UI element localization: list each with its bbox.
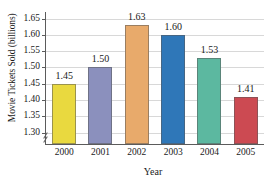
bar-value-label: 1.41 bbox=[237, 84, 255, 94]
x-axis-tick-label: 2001 bbox=[91, 148, 110, 158]
bar-group: 1.532004 bbox=[191, 12, 227, 144]
plot-area: 1.301.351.401.451.501.551.601.65 1.45200… bbox=[45, 12, 264, 145]
bar-group: 1.502001 bbox=[82, 12, 118, 144]
bar-value-label: 1.60 bbox=[164, 22, 182, 32]
y-axis-tick-label: 1.50 bbox=[23, 63, 40, 73]
y-axis-title: Movie Tickets Sold (billions) bbox=[8, 0, 18, 138]
bar-group: 1.452000 bbox=[46, 12, 82, 144]
x-axis-tick-label: 2005 bbox=[236, 148, 255, 158]
x-axis-tick-label: 2000 bbox=[55, 148, 74, 158]
bar-group: 1.632002 bbox=[119, 12, 155, 144]
bar-value-label: 1.63 bbox=[128, 12, 146, 22]
y-axis-tick-label: 1.40 bbox=[23, 95, 40, 105]
bar-value-label: 1.53 bbox=[201, 45, 219, 55]
x-axis-line bbox=[45, 144, 264, 145]
bar[interactable] bbox=[161, 35, 185, 144]
y-axis-tick-label: 1.30 bbox=[23, 128, 40, 138]
bar-group: 1.412005 bbox=[228, 12, 264, 144]
x-axis-title: Year bbox=[40, 167, 266, 177]
x-axis-tick-label: 2004 bbox=[200, 148, 219, 158]
bar-value-label: 1.50 bbox=[92, 54, 110, 64]
bar[interactable] bbox=[88, 67, 112, 144]
bar-group: 1.602003 bbox=[155, 12, 191, 144]
bar[interactable] bbox=[234, 97, 258, 144]
y-axis-tick-label: 1.45 bbox=[23, 79, 40, 89]
x-axis-tick-label: 2002 bbox=[127, 148, 146, 158]
bar-chart: Movie Tickets Sold (billions) 1.301.351.… bbox=[0, 0, 270, 183]
bar[interactable] bbox=[125, 25, 149, 144]
y-axis-tick-label: 1.35 bbox=[23, 112, 40, 122]
bar-series: 1.4520001.5020011.6320021.6020031.532004… bbox=[46, 12, 264, 144]
x-axis-tick-label: 2003 bbox=[164, 148, 183, 158]
y-axis-tick-label: 1.55 bbox=[23, 46, 40, 56]
y-axis-tick-label: 1.60 bbox=[23, 30, 40, 40]
y-axis-tick-label: 1.65 bbox=[23, 14, 40, 24]
bar[interactable] bbox=[52, 84, 76, 144]
bar[interactable] bbox=[197, 58, 221, 144]
bar-value-label: 1.45 bbox=[55, 71, 73, 81]
